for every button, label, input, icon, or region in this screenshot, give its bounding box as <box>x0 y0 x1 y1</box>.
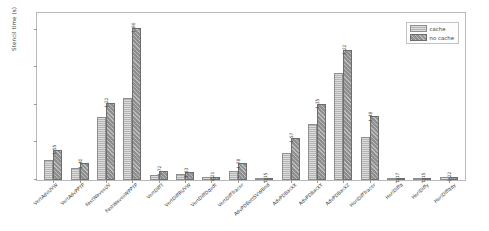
bar-cache <box>123 98 132 180</box>
bar-no-cache: 1.57 <box>291 138 300 180</box>
bar-no-cache: 1.33 <box>185 172 194 180</box>
bar-no-cache: 1.21 <box>211 177 220 180</box>
bar-ratio-label: 1.55 <box>53 144 58 154</box>
legend-item: no cache <box>410 34 454 41</box>
bar-no-cache: 1.40 <box>80 163 89 180</box>
bar-cache <box>334 73 343 180</box>
bar-group: 1.40 <box>66 13 92 180</box>
legend-label: cache <box>430 26 446 32</box>
x-tick-label: AdvPDBackY <box>299 183 325 207</box>
bar-no-cache: 1.55 <box>53 150 62 180</box>
bar-group: 1.86 <box>119 13 145 180</box>
bar-ratio-label: 1.86 <box>132 22 137 32</box>
bar-ratio-label: 1.33 <box>185 167 190 177</box>
bar-group: 1.35 <box>304 13 330 180</box>
bar-ratio-label: 1.78 <box>238 158 243 168</box>
x-tick-label: VertAdvPPTP <box>60 183 86 207</box>
bar-no-cache: 1.35 <box>317 104 326 180</box>
bar-ratio-label: 1.57 <box>290 133 295 143</box>
x-tick-label: HoriDiffqqy <box>434 183 457 205</box>
bar-group: 1.78 <box>225 13 251 180</box>
bar-no-cache: 1.48 <box>370 116 379 180</box>
chart-figure: 0.00.10.20.30.4 Stencil time (s) 1.551.4… <box>0 0 489 231</box>
bar-ratio-label: 1.35 <box>317 99 322 109</box>
bar-cache <box>361 137 370 180</box>
bar-no-cache: 1.17 <box>396 178 405 180</box>
bar-cache <box>71 168 80 180</box>
bar-group: 1.72 <box>146 13 172 180</box>
x-tick-label: HoriDiffq <box>385 183 404 201</box>
bar-no-cache: 1.72 <box>159 171 168 180</box>
bar-no-cache: 1.78 <box>238 163 247 180</box>
bar-cache <box>44 160 53 180</box>
bar-cache <box>97 117 106 180</box>
x-tick-label: FastWavesUV <box>85 183 112 208</box>
bar-no-cache: 1.22 <box>343 50 352 180</box>
plot-area: 0.00.10.20.30.4 Stencil time (s) 1.551.4… <box>36 12 466 181</box>
bar-ratio-label: 1.22 <box>106 98 111 108</box>
bar-group: 1.33 <box>172 13 198 180</box>
y-axis-label: Stencil time (s) <box>11 7 17 51</box>
bar-group: 1.15 <box>251 13 277 180</box>
bar-no-cache: 1.15 <box>264 178 273 180</box>
legend-swatch-cache <box>410 25 427 32</box>
chart-legend: cacheno cache <box>406 22 459 44</box>
bar-ratio-label: 1.48 <box>370 111 375 121</box>
x-tick-label: HoriDiffy <box>412 183 431 201</box>
bar-groups: 1.551.401.221.861.721.331.211.781.151.57… <box>37 13 465 180</box>
bar-group: 1.48 <box>357 13 383 180</box>
bar-group: 1.21 <box>198 13 224 180</box>
bar-group: 1.57 <box>277 13 303 180</box>
bar-cache <box>229 171 238 180</box>
x-tick-label: AdvPDBackZ <box>325 183 351 207</box>
bar-no-cache: 1.22 <box>449 177 458 180</box>
x-axis-labels: VertAdvUVWVertAdvPPTPFastWavesUVFastWave… <box>36 183 466 231</box>
legend-label: no cache <box>430 35 454 41</box>
bar-group: 1.22 <box>330 13 356 180</box>
bar-no-cache: 1.22 <box>106 103 115 180</box>
bar-group: 1.22 <box>93 13 119 180</box>
x-tick-label: AdvPDBackX <box>272 183 298 207</box>
x-tick-label: VertDiffDqvdt <box>191 183 218 208</box>
x-tick-label: HoriDiffTracer <box>350 183 378 209</box>
legend-item: cache <box>410 25 454 32</box>
x-tick-label: VertDiffRUVW <box>164 183 192 209</box>
bar-group: 1.55 <box>40 13 66 180</box>
bar-no-cache: 1.15 <box>422 178 431 180</box>
bar-ratio-label: 1.22 <box>343 45 348 55</box>
bar-cache <box>308 124 317 180</box>
bar-cache <box>282 153 291 180</box>
x-tick-label: VertAdvUVW <box>34 183 60 207</box>
bar-ratio-label: 1.72 <box>159 166 164 176</box>
bar-ratio-label: 1.40 <box>79 158 84 168</box>
legend-swatch-nocache <box>410 34 427 41</box>
x-tick-label: VertDiffT <box>147 183 166 201</box>
bar-no-cache: 1.86 <box>132 28 141 180</box>
